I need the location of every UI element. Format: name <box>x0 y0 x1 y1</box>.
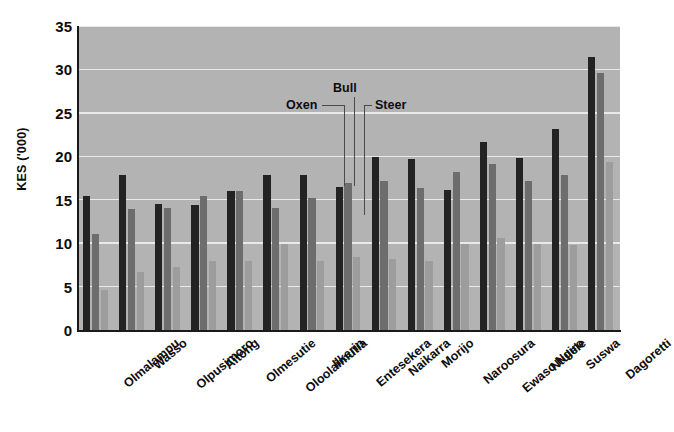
x-tick-label-dagoretti: Dagoretti <box>623 336 674 382</box>
x-tick-label-suswa: Suswa <box>583 336 622 372</box>
